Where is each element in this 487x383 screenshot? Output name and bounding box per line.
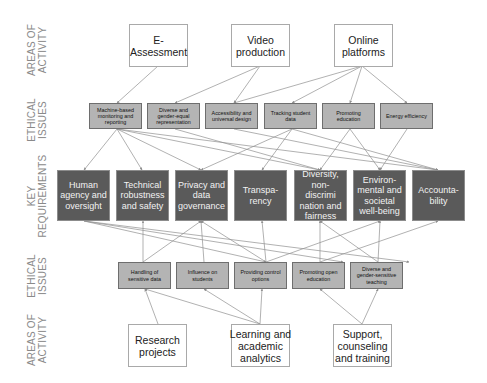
area-learning-analytics: Learning and academic analytics [231,324,290,367]
row-label-text: KEY REQUIREMENTS [26,155,48,238]
requirement-transparency: Transpa-rency [234,170,287,221]
issue-promoting-open-education: Promoting open education [292,262,345,289]
issue-handling-sensitive-data: Handling of sensitive data [118,262,171,289]
row-label-text: ETHICAL ISSUES [26,98,48,142]
row-label-bottom-areas: AREAS OF ACTIVITY [22,300,52,380]
requirement-accountability: Accounta-bility [412,170,465,221]
area-support-counseling: Support, counseling and training [333,324,392,367]
area-online-platforms: Online platforms [334,24,393,67]
requirement-privacy: Privacy and data governance [175,170,228,221]
row-label-text: AREAS OF ACTIVITY [26,24,48,76]
row-label-text: ETHICAL ISSUES [26,254,48,298]
issue-providing-control-options: Providing control options [234,262,287,289]
issue-accessibility: Accessibility and universal design [205,103,258,129]
row-label-top-areas: AREAS OF ACTIVITY [22,10,52,90]
area-research-projects: Research projects [128,324,187,367]
area-e-assessment: E- Assessment [129,24,188,67]
requirement-environmental: Environ-mental and societal well-being [353,170,406,221]
issue-diverse-gender-sensitive-teaching: Diverse and gender-sensitive teaching [350,262,403,289]
requirement-technical-robustness: Technical robustness and safety [116,170,169,221]
area-video-production: Video production [231,24,290,67]
row-label-text: AREAS OF ACTIVITY [26,314,48,366]
requirement-human-agency: Human agency and oversight [57,170,110,221]
issue-diverse-representation: Diverse and gender-equal representation [147,103,200,129]
issue-promoting-education: Promoting education [322,103,375,129]
issue-energy-efficiency: Energy efficiency [380,103,433,129]
issue-machine-based-monitoring: Machine-based monitoring and reporting [89,103,142,129]
row-label-requirements: KEY REQUIREMENTS [22,156,52,236]
issue-tracking-student-data: Tracking student data [264,103,317,129]
issue-influence-on-students: Influence on students [176,262,229,289]
row-label-top-issues: ETHICAL ISSUES [22,80,52,160]
requirement-diversity: Diversity, non-discrimi nation and fairn… [294,170,347,221]
